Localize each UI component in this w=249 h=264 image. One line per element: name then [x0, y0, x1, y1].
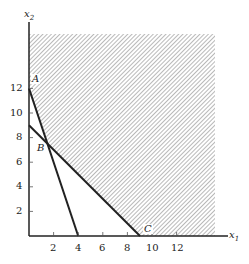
x-tick-label: 12: [171, 243, 184, 253]
y-tick-label: 12: [10, 83, 23, 93]
y-tick-label: 2: [16, 206, 22, 216]
feasible-region: [29, 34, 215, 236]
y-tick-label: 4: [16, 181, 22, 191]
point-label-a: A: [31, 74, 40, 84]
x-tick-label: 2: [50, 243, 56, 253]
y-tick-label: 6: [16, 157, 22, 167]
x-axis-label: x1: [229, 230, 239, 243]
x-tick-label: 8: [124, 243, 130, 253]
feasible-region-diagram: [0, 0, 249, 264]
point-label-c: C: [143, 224, 153, 234]
x-tick-label: 4: [75, 243, 81, 253]
x-tick-label: 10: [146, 243, 159, 253]
y-tick-label: 8: [16, 132, 22, 142]
point-label-b: B: [37, 143, 44, 153]
x-tick-label: 6: [99, 243, 105, 253]
y-axis-label: x2: [24, 9, 34, 22]
y-tick-label: 10: [10, 108, 23, 118]
